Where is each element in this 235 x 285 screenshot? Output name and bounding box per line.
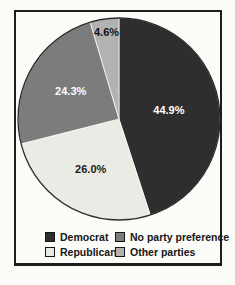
- legend-swatch-democrat: [45, 232, 55, 242]
- legend-label-democrat: Democrat: [60, 231, 108, 243]
- legend-item-republican: Republican: [45, 246, 115, 258]
- legend-item-no-party-preference: No party preference: [115, 231, 229, 243]
- legend-item-other-parties: Other parties: [115, 246, 229, 258]
- legend-label-republican: Republican: [60, 246, 117, 258]
- legend-swatch-no-party-preference: [115, 232, 125, 242]
- legend-label-no-party-preference: No party preference: [130, 231, 229, 243]
- legend-swatch-republican: [45, 247, 55, 257]
- figure: 44.9%26.0%24.3%4.6% Democrat No party pr…: [0, 0, 235, 285]
- legend-swatch-other-parties: [115, 247, 125, 257]
- legend-item-democrat: Democrat: [45, 231, 115, 243]
- legend-label-other-parties: Other parties: [130, 246, 195, 258]
- legend: Democrat No party preference Republican …: [16, 231, 218, 258]
- chart-frame: [14, 10, 222, 266]
